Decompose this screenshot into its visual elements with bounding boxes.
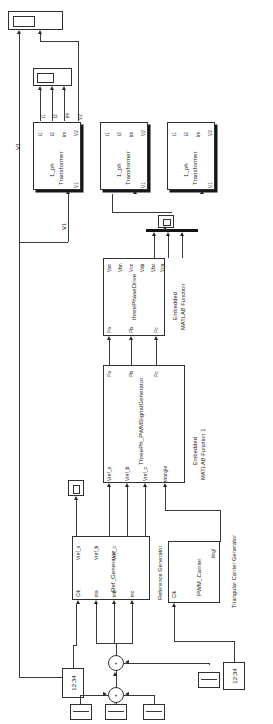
wire-pb <box>131 340 132 365</box>
sum-lower-sign: + <box>115 693 118 698</box>
wire-v1-long-bottom <box>19 677 65 678</box>
wire-label-i2: i2 <box>54 114 59 118</box>
transformer-c-port-i1: i1 <box>173 132 178 136</box>
transformer-a-port-i1: i1 <box>39 132 44 136</box>
ref-in-mc: mc <box>131 591 136 597</box>
wire-bus-to-drive-2 <box>168 236 169 258</box>
wire-bus-to-drive-3 <box>182 236 183 258</box>
block-pwm-signal-generator[interactable] <box>103 365 185 483</box>
pwm-in-vref-c: Vref_c <box>144 467 149 481</box>
transformer-c-input-arrow <box>200 190 204 194</box>
wire-sum-upper-up <box>116 643 117 656</box>
ref-in-clk: Clk <box>77 590 82 597</box>
wire-label-i1: i1 <box>42 114 47 118</box>
wire-v1-a-drop <box>68 194 69 242</box>
transformer-b-port-v1: V1 <box>142 182 147 188</box>
transformer-c-port-v2: V2 <box>209 130 214 136</box>
const-block-2-inner <box>108 711 124 717</box>
scope-ref-screen <box>73 485 80 494</box>
scope-top[interactable] <box>8 11 63 30</box>
transformer-c-port-v1: V1 <box>209 182 214 188</box>
transformer-a-label-line1: 1_ph <box>49 163 55 177</box>
wire-triangle-across <box>165 510 220 511</box>
transformer-b-port-i1: i1 <box>106 132 111 136</box>
sum-upper-sign: + <box>115 661 118 666</box>
wire-sum-link-arrow <box>113 672 117 676</box>
transformer-a-label-line2: Transformer <box>58 151 64 185</box>
pwm-carrier-out-tingl: tingl <box>212 549 217 558</box>
drive-out-vab: Vab <box>141 264 146 272</box>
wire-sum-lower-right-v <box>154 695 155 705</box>
three-phase-drive-annotation-1: Embedded <box>173 292 179 320</box>
wire-label-v2-a: V2 <box>79 114 84 120</box>
transformer-a-port-i2: i2 <box>51 132 56 136</box>
sum-lower-left-arrow <box>103 692 107 696</box>
ref-in-mb: mb <box>113 590 118 597</box>
scope-mid[interactable] <box>33 68 72 86</box>
drive-out-van: Van <box>108 264 113 272</box>
wire-clock-left-up <box>73 645 74 669</box>
drive-out-vbn: Vbn <box>119 263 124 272</box>
transformer-a-port-v1: V1 <box>75 182 80 188</box>
clock-right-label: 12:34 <box>231 668 238 683</box>
scope-ref[interactable] <box>68 480 84 496</box>
wire-v1-bus-horizontal <box>19 242 68 243</box>
wire-clock-left-to-ref <box>76 604 77 646</box>
wire-pc <box>156 340 157 365</box>
pwm-out-pa: Pa <box>108 371 113 377</box>
wire-vref-b <box>127 487 128 536</box>
wire-clk-carrier-v2 <box>234 641 235 663</box>
wire-fan-ma <box>96 604 97 644</box>
const-block-3-inner <box>146 711 162 717</box>
clock-left[interactable]: 12:34 <box>62 668 84 698</box>
transformer-c-label-line1: 1_ph <box>183 163 189 177</box>
const-block-1-inner <box>73 711 89 717</box>
ref-out-vref-b: Vref_b <box>95 546 100 560</box>
drive-in-pa: Pa <box>108 327 113 333</box>
wire-bus-to-drive-1 <box>154 236 155 258</box>
pwm-in-vref-a: Vref_a <box>108 467 113 481</box>
drive-out-vca: Vca <box>161 264 166 272</box>
transformer-b-label-line2: Transformer <box>125 151 131 185</box>
const-block-1[interactable] <box>70 704 92 720</box>
const-block-2[interactable] <box>105 704 127 720</box>
const-block-4-inner <box>201 679 217 685</box>
pwm-in-triangle: triangle <box>164 466 169 482</box>
pwm-carrier-in-clk: Clk <box>173 591 178 598</box>
pwm-carrier-label: PWM_Carrier <box>196 559 202 596</box>
wire-fan-mc <box>132 604 133 644</box>
transformer-c-port-i2: i2 <box>185 132 190 136</box>
sum-upper-right-arrow <box>125 660 129 664</box>
drive-in-pc: Pc <box>155 327 160 333</box>
wire-label-im: im <box>66 113 71 118</box>
wire-triangle-up <box>165 487 166 510</box>
sum-upper[interactable]: + <box>108 655 124 671</box>
wire-clk-carrier-h <box>174 641 234 642</box>
three-phase-drive-annotation-2: MATLAB Function <box>181 284 187 330</box>
transformer-a-port-v2: V2 <box>75 130 80 136</box>
transformer-b-input-arrow <box>133 190 137 194</box>
const-block-3[interactable] <box>143 704 165 720</box>
drive-in-pb: Pb <box>130 327 135 333</box>
wire-scope-ref-drop <box>76 500 77 536</box>
wire-bus-left-up <box>112 194 113 213</box>
ref-out-vref-a: Vref_a <box>77 546 82 560</box>
const-block-4[interactable] <box>198 672 220 688</box>
wire-vref-a <box>109 487 110 536</box>
transformer-c-port-im: im <box>197 132 202 137</box>
pwm-generator-annotation-1: Embedded <box>193 437 199 465</box>
transformer-b-port-im: im <box>130 132 135 137</box>
wire-sum-upper-right <box>124 663 209 664</box>
wire-clk-carrier <box>174 607 175 641</box>
sum-lower[interactable]: + <box>108 687 124 703</box>
scope-bus-screen <box>163 219 171 226</box>
ref-out-vref-c: Vref_c <box>113 546 118 560</box>
wire-pa <box>109 340 110 365</box>
wire-v1-long-vertical <box>19 33 20 678</box>
transformer-b-port-i2: i2 <box>118 132 123 136</box>
clock-left-label: 12:34 <box>70 675 77 690</box>
clock-right[interactable]: 12:34 <box>223 662 245 690</box>
wire-bus-left-run <box>112 212 172 213</box>
pwm-carrier-annotation: Triangular Carrier Generator <box>232 535 238 608</box>
scope-bus-input-arrow <box>163 226 167 230</box>
